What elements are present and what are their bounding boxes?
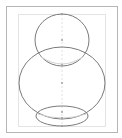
point-mid-center <box>61 82 63 84</box>
diagram-canvas <box>0 0 122 138</box>
outer-frame <box>7 7 118 133</box>
point-top-center <box>61 39 63 41</box>
point-bottom <box>61 125 63 127</box>
point-top <box>61 13 63 15</box>
point-bottom-center <box>61 117 63 119</box>
point-bottom-top <box>61 111 63 113</box>
point-mid-top <box>61 64 63 66</box>
